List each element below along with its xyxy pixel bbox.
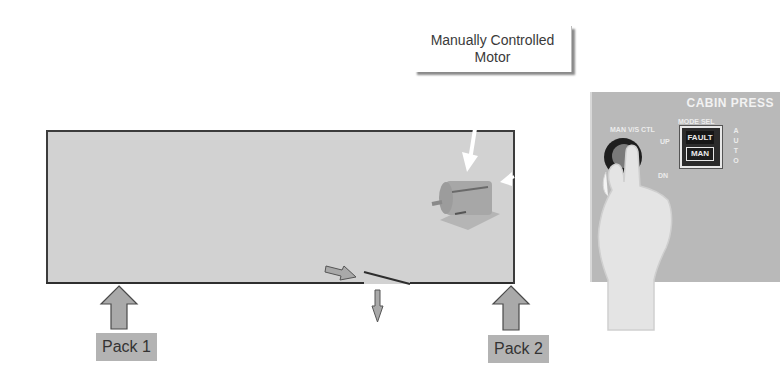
- motor-icon: [432, 181, 500, 230]
- auto-letter: T: [732, 146, 740, 156]
- outflow-valve-door-icon: [364, 272, 410, 284]
- auto-letter: A: [732, 126, 740, 136]
- callout-pointer-arrow-icon: [462, 110, 478, 172]
- exhaust-arrow-icon: [372, 290, 383, 322]
- pack-2-arrow-icon: [493, 286, 529, 330]
- auto-letter: O: [732, 156, 740, 166]
- pack-2-label: Pack 2: [488, 335, 549, 363]
- hand-icon: [590, 130, 700, 350]
- auto-label: A U T O: [732, 126, 740, 166]
- mode-sel-label: MODE SEL: [678, 118, 715, 125]
- auto-letter: U: [732, 136, 740, 146]
- pack-1-arrow-icon: [101, 286, 137, 329]
- cabin-airflow-arrow-icon: [325, 266, 356, 280]
- pack-1-label: Pack 1: [96, 333, 157, 361]
- panel-title: CABIN PRESS: [686, 96, 774, 110]
